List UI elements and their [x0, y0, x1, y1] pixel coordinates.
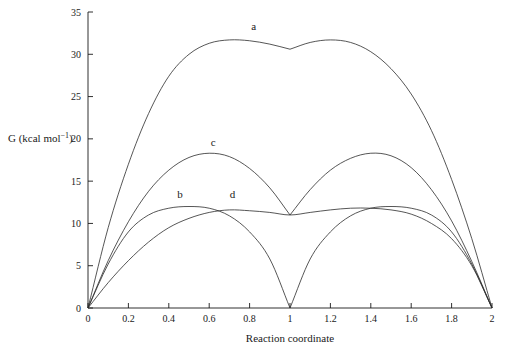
- y-tick-label: 0: [76, 303, 81, 314]
- plot-area: 0510152025303500.20.40.60.811.21.41.61.8…: [0, 0, 507, 350]
- x-tick-label: 1.2: [324, 313, 337, 324]
- tick-marks: 0510152025303500.20.40.60.811.21.41.61.8…: [71, 7, 495, 325]
- y-tick-label: 25: [71, 91, 81, 102]
- x-tick-label: 0.6: [203, 313, 216, 324]
- axes: [88, 12, 492, 308]
- curve-a: [88, 40, 492, 308]
- x-tick-label: 0.2: [122, 313, 135, 324]
- y-tick-label: 30: [71, 49, 81, 60]
- y-tick-label: 15: [71, 176, 81, 187]
- chart-figure: 0510152025303500.20.40.60.811.21.41.61.8…: [0, 0, 507, 350]
- x-tick-label: 0.8: [243, 313, 256, 324]
- y-axis-title: G (kcal mol−1): [8, 131, 73, 146]
- x-axis-title: Reaction coordinate: [246, 332, 334, 344]
- curve-labels: acbd: [177, 20, 256, 200]
- y-tick-label: 10: [71, 218, 81, 229]
- x-tick-label: 0: [86, 313, 91, 324]
- curve-label-c: c: [211, 136, 216, 148]
- x-tick-label: 0.4: [163, 313, 176, 324]
- curve-label-a: a: [251, 20, 256, 32]
- curve-c: [88, 153, 492, 308]
- curve-d: [88, 208, 492, 308]
- x-tick-label: 1: [288, 313, 293, 324]
- x-tick-label: 1.8: [445, 313, 458, 324]
- curves: [88, 40, 492, 308]
- x-tick-label: 2: [490, 313, 495, 324]
- curve-b: [88, 207, 492, 308]
- x-tick-label: 1.4: [365, 313, 378, 324]
- x-tick-label: 1.6: [405, 313, 418, 324]
- curve-label-d: d: [230, 188, 236, 200]
- curve-label-b: b: [177, 188, 183, 200]
- y-tick-label: 35: [71, 7, 81, 18]
- y-tick-label: 5: [76, 260, 81, 271]
